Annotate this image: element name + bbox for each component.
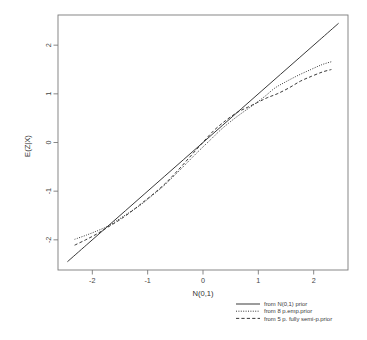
y-tick-label: -2 <box>44 237 53 243</box>
data-curves <box>67 23 338 261</box>
legend-label-2: from 5 p. fully semi-p.prior <box>264 316 332 322</box>
x-axis-ticks: -2-1012 <box>89 270 316 285</box>
y-tick-label: -1 <box>44 188 53 194</box>
x-tick-label: 2 <box>312 276 316 285</box>
y-tick-label: 2 <box>44 43 53 47</box>
legend-label-0: from N(0,1) prior <box>264 301 307 307</box>
y-tick-label: 0 <box>44 141 53 145</box>
legend-label-1: from 8 p.emp.prior <box>264 308 312 314</box>
x-tick-label: -1 <box>144 276 150 285</box>
y-tick-label: 1 <box>44 92 53 96</box>
x-tick-label: 1 <box>256 276 260 285</box>
series-line-2 <box>75 70 332 246</box>
x-tick-label: 0 <box>201 276 205 285</box>
series-line-1 <box>75 62 332 240</box>
y-axis-title: E(Z|X) <box>23 135 32 157</box>
x-tick-label: -2 <box>89 276 95 285</box>
chart-canvas: -2-1012 -2-1012 N(0,1) E(Z|X) from N(0,1… <box>0 0 367 340</box>
y-axis-ticks: -2-1012 <box>44 43 58 243</box>
legend: from N(0,1) priorfrom 8 p.emp.priorfrom … <box>236 301 332 321</box>
x-axis-title: N(0,1) <box>192 289 214 298</box>
figure-container: -2-1012 -2-1012 N(0,1) E(Z|X) from N(0,1… <box>0 0 367 340</box>
